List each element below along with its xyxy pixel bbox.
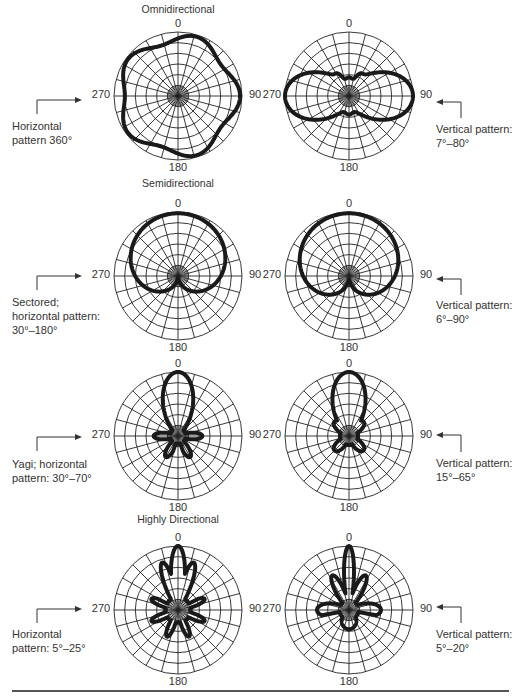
polar-grid: [114, 32, 242, 160]
polar-plot-omni-horizontal: [110, 28, 246, 164]
antenna-radiation-patterns-figure: Omnidirectional Semidirectional Highly D…: [0, 0, 521, 698]
polar-plot-yagi-vertical: [281, 368, 417, 504]
angle-label-90: 90: [411, 88, 441, 100]
arrow-row3-right: [440, 435, 461, 452]
polar-grid: [114, 372, 242, 500]
caption-row3-right: Vertical pattern: 15°–65°: [436, 456, 512, 484]
polar-grid: [285, 32, 413, 160]
angle-label-180: 180: [334, 341, 364, 353]
angle-label-0: 0: [163, 531, 193, 543]
arrow-row1-left: [37, 100, 78, 114]
arrow-row4-left: [37, 609, 78, 623]
angle-label-180: 180: [163, 501, 193, 513]
angle-label-0: 0: [163, 357, 193, 369]
caption-row4-left: Horizontal pattern: 5°–25°: [12, 627, 86, 655]
angle-label-0: 0: [163, 17, 193, 29]
caption-row1-left: Horizontal pattern 360°: [12, 119, 72, 147]
section-title-semidirectional: Semidirectional: [98, 177, 258, 189]
bottom-rule: [12, 690, 509, 692]
angle-label-180: 180: [163, 675, 193, 687]
angle-label-180: 180: [163, 341, 193, 353]
polar-plot-omni-vertical: [281, 28, 417, 164]
angle-label-270: 270: [86, 602, 116, 614]
polar-grid: [285, 546, 413, 674]
angle-label-0: 0: [334, 357, 364, 369]
angle-label-0: 0: [334, 17, 364, 29]
angle-label-180: 180: [334, 675, 364, 687]
polar-grid: [285, 372, 413, 500]
angle-label-270: 270: [257, 428, 287, 440]
caption-row2-left: Sectored; horizontal pattern: 30°–180°: [12, 295, 100, 337]
angle-label-270: 270: [86, 268, 116, 280]
arrow-row3-left: [37, 437, 78, 451]
polar-plot-highly-horizontal: [110, 542, 246, 678]
arrow-row2-left: [37, 276, 78, 290]
pointer-arrows: [0, 0, 521, 698]
arrow-row2-right: [440, 279, 461, 295]
polar-plot-highly-vertical: [281, 542, 417, 678]
polar-plot-semi-horizontal: [110, 208, 246, 344]
caption-row3-left: Yagi; horizontal pattern: 30°–70°: [12, 457, 92, 485]
angle-label-180: 180: [334, 501, 364, 513]
section-title-highly-directional: Highly Directional: [98, 513, 258, 525]
angle-label-270: 270: [257, 268, 287, 280]
arrow-row4-right: [440, 607, 461, 623]
angle-label-180: 180: [163, 161, 193, 173]
angle-label-0: 0: [163, 197, 193, 209]
angle-label-270: 270: [86, 428, 116, 440]
angle-label-270: 270: [257, 602, 287, 614]
angle-label-270: 270: [257, 88, 287, 100]
polar-plot-semi-vertical: [281, 208, 417, 344]
angle-label-90: 90: [411, 268, 441, 280]
angle-label-270: 270: [86, 88, 116, 100]
caption-row2-right: Vertical pattern: 6°–90°: [436, 298, 512, 326]
section-title-omnidirectional: Omnidirectional: [98, 3, 258, 15]
polar-plot-yagi-horizontal: [110, 368, 246, 504]
angle-label-0: 0: [334, 197, 364, 209]
angle-label-180: 180: [334, 161, 364, 173]
angle-label-90: 90: [411, 602, 441, 614]
angle-label-0: 0: [334, 531, 364, 543]
caption-row4-right: Vertical pattern: 5°–20°: [436, 627, 512, 655]
angle-label-90: 90: [411, 428, 441, 440]
polar-grid: [114, 546, 242, 674]
caption-row1-right: Vertical pattern: 7°–80°: [436, 122, 512, 150]
arrow-row1-right: [440, 102, 461, 118]
